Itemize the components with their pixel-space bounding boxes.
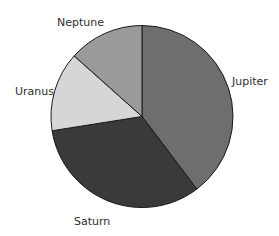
label-saturn: Saturn bbox=[74, 215, 110, 228]
label-neptune: Neptune bbox=[57, 16, 104, 29]
pie-chart: Jupiter Saturn Uranus Neptune bbox=[0, 0, 279, 236]
label-uranus: Uranus bbox=[15, 85, 54, 98]
pie-slices bbox=[51, 25, 233, 207]
label-jupiter: Jupiter bbox=[231, 75, 268, 88]
